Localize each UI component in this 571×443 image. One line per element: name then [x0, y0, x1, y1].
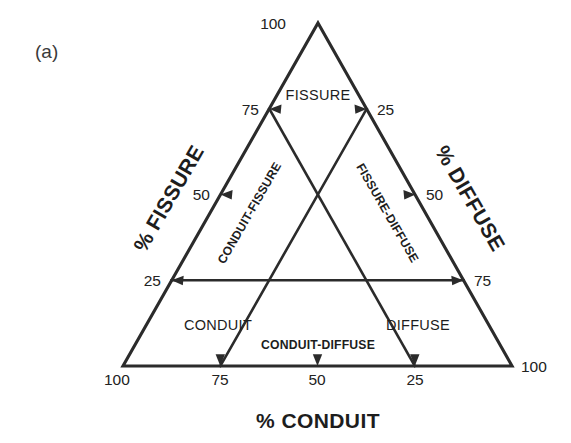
- tick-label-apex-100: 100: [260, 15, 286, 32]
- tick-label-base-75: 75: [211, 371, 228, 388]
- region-labels: FISSURE CONDUIT-FISSURE FISSURE-DIFFUSE …: [184, 87, 450, 352]
- tick-label-right-50: 50: [426, 186, 444, 203]
- axis-titles: % FISSURE % DIFFUSE % CONDUIT: [129, 141, 510, 432]
- tick-label-left-75: 75: [242, 101, 259, 118]
- region-label-conduit-fissure: CONDUIT-FISSURE: [215, 160, 284, 266]
- tick-label-right-25: 25: [377, 101, 394, 118]
- figure-canvas: (a): [0, 0, 571, 443]
- tick-label-right-75: 75: [474, 272, 491, 289]
- ternary-diagram: (a): [0, 0, 571, 443]
- tick-label-right-vertex-100: 100: [521, 358, 547, 375]
- tick-label-left-25: 25: [144, 272, 161, 289]
- tick-label-left-50: 50: [193, 186, 211, 203]
- region-label-fissure: FISSURE: [286, 87, 351, 103]
- tick-label-left-vertex-100: 100: [104, 371, 130, 388]
- region-label-conduit-diffuse: CONDUIT-DIFFUSE: [261, 338, 375, 352]
- tick-label-base-25: 25: [406, 371, 423, 388]
- axis-title-bottom: % CONDUIT: [256, 409, 380, 432]
- tick-label-base-50: 50: [308, 371, 326, 388]
- arrowhead-base-50: [313, 354, 322, 366]
- region-label-conduit: CONDUIT: [184, 317, 252, 333]
- region-label-diffuse: DIFFUSE: [386, 317, 450, 333]
- region-label-fissure-diffuse: FISSURE-DIFFUSE: [353, 161, 421, 265]
- panel-letter: (a): [35, 41, 58, 62]
